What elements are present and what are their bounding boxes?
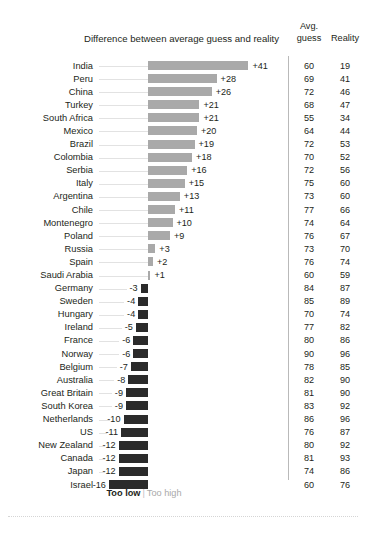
chart-row: Chile+117766	[0, 203, 366, 216]
row-leader-line	[99, 79, 148, 80]
cell-reality: 92	[328, 400, 362, 412]
bar-value-label: +1	[154, 269, 164, 281]
bottom-divider	[8, 516, 358, 517]
cell-reality: 52	[328, 151, 362, 163]
row-category-label: Mexico	[0, 125, 93, 137]
chart-row: Hungary-47074	[0, 308, 366, 321]
chart-bar	[148, 126, 197, 135]
cell-avg-guess: 77	[292, 321, 326, 333]
cell-reality: 86	[328, 334, 362, 346]
row-leader-line	[99, 145, 148, 146]
cell-reality: 56	[328, 164, 362, 176]
chart-row: Brazil+197253	[0, 138, 366, 151]
chart-bar	[121, 428, 148, 437]
row-category-label: Ireland	[0, 321, 93, 333]
chart-bar	[148, 74, 217, 83]
cell-avg-guess: 78	[292, 361, 326, 373]
bar-value-label: -3	[130, 282, 138, 294]
bar-value-label: +2	[157, 256, 167, 268]
row-category-label: China	[0, 86, 93, 98]
row-category-label: Belgium	[0, 361, 93, 373]
row-category-label: Norway	[0, 348, 93, 360]
chart-row: Spain+27674	[0, 255, 366, 268]
cell-avg-guess: 74	[292, 465, 326, 477]
chart-rows: India+416019Peru+286941China+267246Turke…	[0, 59, 366, 491]
cell-avg-guess: 82	[292, 374, 326, 386]
row-leader-line	[99, 315, 124, 316]
cell-avg-guess: 90	[292, 348, 326, 360]
row-leader-line	[99, 393, 112, 394]
row-category-label: Canada	[0, 452, 93, 464]
cell-avg-guess: 70	[292, 308, 326, 320]
cell-reality: 90	[328, 387, 362, 399]
chart-row: Saudi Arabia+16059	[0, 269, 366, 282]
chart-legend: Too low|Too high	[0, 487, 288, 499]
cell-avg-guess: 60	[292, 60, 326, 72]
cell-reality: 74	[328, 256, 362, 268]
row-leader-line	[99, 210, 148, 211]
cell-reality: 44	[328, 125, 362, 137]
row-category-label: France	[0, 334, 93, 346]
row-category-label: Chile	[0, 204, 93, 216]
column-header-avg-line1: Avg.	[292, 21, 326, 33]
chart-row: Sweden-48589	[0, 295, 366, 308]
cell-avg-guess: 85	[292, 295, 326, 307]
bar-value-label: -10	[107, 413, 120, 425]
cell-reality: 89	[328, 295, 362, 307]
bar-value-label: +26	[216, 86, 231, 98]
cell-avg-guess: 83	[292, 400, 326, 412]
chart-row: Montenegro+107464	[0, 216, 366, 229]
chart-row: South Africa+215534	[0, 111, 366, 124]
bar-value-label: +10	[177, 217, 192, 229]
cell-reality: 67	[328, 230, 362, 242]
chart-row: Colombia+187052	[0, 151, 366, 164]
row-leader-line	[99, 380, 114, 381]
row-leader-line	[99, 236, 148, 237]
cell-avg-guess: 80	[292, 439, 326, 451]
row-leader-line	[99, 131, 148, 132]
chart-bar	[148, 205, 175, 214]
row-category-label: Sweden	[0, 295, 93, 307]
bar-value-label: -7	[120, 361, 128, 373]
row-category-label: New Zealand	[0, 439, 93, 451]
bar-value-label: -5	[125, 321, 133, 333]
chart-row: Japan-127486	[0, 465, 366, 478]
chart-bar	[148, 192, 180, 201]
row-category-label: South Africa	[0, 112, 93, 124]
cell-reality: 93	[328, 452, 362, 464]
chart-bar	[124, 415, 149, 424]
cell-avg-guess: 72	[292, 138, 326, 150]
legend-too-low: Too low	[106, 488, 140, 498]
bar-value-label: -6	[122, 334, 130, 346]
chart-row: Serbia+167256	[0, 164, 366, 177]
chart-row: France-68086	[0, 334, 366, 347]
cell-reality: 47	[328, 99, 362, 111]
row-leader-line	[99, 105, 148, 106]
chart-row: Germany-38487	[0, 282, 366, 295]
cell-avg-guess: 74	[292, 217, 326, 229]
cell-avg-guess: 69	[292, 73, 326, 85]
row-category-label: South Korea	[0, 400, 93, 412]
cell-reality: 96	[328, 348, 362, 360]
row-category-label: Brazil	[0, 138, 93, 150]
cell-avg-guess: 64	[292, 125, 326, 137]
chart-row: India+416019	[0, 59, 366, 72]
cell-reality: 85	[328, 361, 362, 373]
row-leader-line	[99, 289, 127, 290]
chart-row: Turkey+216847	[0, 98, 366, 111]
cell-reality: 53	[328, 138, 362, 150]
chart-bar	[141, 284, 148, 293]
cell-avg-guess: 86	[292, 413, 326, 425]
chart-bar	[138, 297, 148, 306]
row-leader-line	[99, 328, 122, 329]
bar-value-label: +41	[252, 60, 267, 72]
chart-row: Poland+97667	[0, 229, 366, 242]
bar-value-label: +9	[174, 230, 184, 242]
row-category-label: Great Britain	[0, 387, 93, 399]
row-leader-line	[99, 341, 119, 342]
chart-bar	[148, 100, 199, 109]
chart-bar	[119, 454, 148, 463]
row-leader-line	[99, 171, 148, 172]
chart-row: Ireland-57782	[0, 321, 366, 334]
chart-row: Netherlands-108696	[0, 413, 366, 426]
